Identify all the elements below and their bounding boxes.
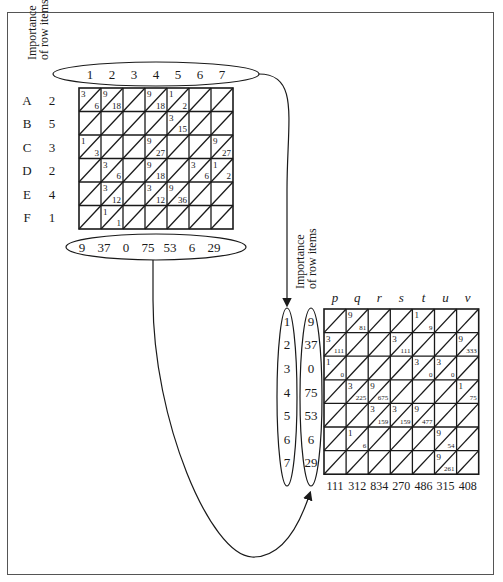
cell-weighted-score: 675 — [378, 394, 389, 402]
cell-diagonal — [123, 206, 145, 230]
cell-relationship-weight: 9 — [213, 136, 218, 146]
cell-diagonal — [79, 206, 101, 230]
cell-weighted-score: 159 — [378, 418, 389, 426]
left-column-sum: 75 — [142, 240, 155, 255]
cell-diagonal — [346, 356, 368, 380]
cell-relationship-weight: 9 — [414, 404, 419, 414]
cell-relationship-weight: 9 — [103, 89, 108, 99]
cell-diagonal — [324, 451, 346, 475]
cell-weighted-score: 6 — [363, 442, 367, 450]
cell-diagonal — [390, 427, 412, 451]
right-column-label: u — [442, 290, 449, 305]
left-row-name: F — [23, 210, 30, 225]
cell-diagonal — [211, 206, 233, 230]
left-row-name: D — [22, 163, 31, 178]
cell-relationship-weight: 3 — [437, 357, 442, 367]
left-column-labels: 1234567 — [87, 67, 226, 82]
cell-weighted-score: 18 — [156, 101, 166, 111]
cell-diagonal — [368, 356, 390, 380]
right-column-sum: 270 — [392, 479, 410, 493]
right-column-sums: 111312834270486315408 — [326, 479, 476, 493]
cell-weighted-score: 2 — [227, 171, 232, 181]
cell-weighted-score: 333 — [466, 347, 477, 355]
cell-relationship-weight: 1 — [348, 428, 353, 438]
cell-relationship-weight: 9 — [147, 136, 152, 146]
left-column-label: 1 — [87, 67, 94, 82]
cell-diagonal — [189, 182, 211, 206]
cell-diagonal — [189, 135, 211, 159]
cell-weighted-score: 225 — [356, 394, 367, 402]
cell-diagonal — [167, 206, 189, 230]
cell-relationship-weight: 9 — [437, 428, 442, 438]
cell-relationship-weight: 9 — [459, 334, 464, 344]
right-row-index: 1234567 — [284, 314, 291, 471]
cell-weighted-score: 6 — [95, 101, 100, 111]
cell-diagonal — [123, 159, 145, 183]
cell-diagonal — [167, 159, 189, 183]
cell-weighted-score: 12 — [112, 195, 121, 205]
cell-diagonal — [457, 356, 479, 380]
cell-diagonal — [145, 206, 167, 230]
cell-relationship-weight: 3 — [392, 404, 397, 414]
right-row-index: 7 — [284, 455, 291, 470]
left-row-importance: 1 — [49, 210, 56, 225]
right-row-importance: 29 — [305, 455, 318, 470]
cell-diagonal — [390, 380, 412, 404]
left-row-importance: 2 — [49, 163, 56, 178]
cell-relationship-weight: 9 — [169, 183, 174, 193]
cell-relationship-weight: 3 — [326, 334, 331, 344]
cell-relationship-weight: 9 — [370, 381, 375, 391]
cell-diagonal — [145, 112, 167, 136]
cell-weighted-score: 2 — [183, 101, 188, 111]
right-column-label: s — [399, 290, 404, 305]
cell-diagonal — [435, 403, 457, 427]
cell-diagonal — [457, 451, 479, 475]
right-row-index: 2 — [284, 337, 291, 352]
left-row-importance: 4 — [49, 187, 56, 202]
right-row-index: 1 — [284, 314, 291, 329]
right-column-sum: 486 — [414, 479, 432, 493]
right-column-sum: 408 — [459, 479, 477, 493]
cell-relationship-weight: 3 — [103, 183, 108, 193]
cell-relationship-weight: 3 — [348, 381, 353, 391]
cell-weighted-score: 111 — [334, 347, 344, 355]
cell-diagonal — [368, 309, 390, 333]
cell-diagonal — [189, 88, 211, 112]
cell-diagonal — [324, 427, 346, 451]
cell-diagonal — [123, 112, 145, 136]
cell-diagonal — [435, 309, 457, 333]
cell-diagonal — [324, 380, 346, 404]
left-column-label: 4 — [153, 67, 160, 82]
cell-diagonal — [79, 159, 101, 183]
left-column-label: 7 — [219, 67, 226, 82]
cell-weighted-score: 12 — [156, 195, 165, 205]
cell-diagonal — [368, 333, 390, 357]
right-column-label: r — [377, 290, 383, 305]
left-row-name: C — [23, 140, 32, 155]
left-column-label: 5 — [175, 67, 182, 82]
cell-relationship-weight: 1 — [414, 310, 419, 320]
cell-weighted-score: 36 — [178, 195, 188, 205]
right-column-label: t — [422, 290, 426, 305]
left-row-name: B — [23, 116, 32, 131]
right-row-importance: 9 — [308, 314, 315, 329]
left-title-line-2: of row items — [37, 0, 51, 60]
left-column-label: 6 — [197, 67, 204, 82]
left-row-name: E — [23, 187, 31, 202]
cell-diagonal — [189, 206, 211, 230]
cell-relationship-weight: 3 — [191, 160, 196, 170]
cell-diagonal — [435, 380, 457, 404]
left-row-importance: 2 — [49, 93, 56, 108]
cell-diagonal — [346, 403, 368, 427]
right-row-index: 6 — [284, 432, 291, 447]
right-row-importance: 53 — [305, 408, 318, 423]
right-matrix-grid: 9811931113111933310303032259675175315931… — [324, 309, 479, 474]
cell-diagonal — [390, 309, 412, 333]
left-column-sum: 37 — [98, 240, 112, 255]
cell-diagonal — [324, 309, 346, 333]
cell-weighted-score: 3 — [95, 148, 100, 158]
cell-weighted-score: 0 — [429, 371, 433, 379]
cell-diagonal — [390, 356, 412, 380]
left-row-importance: 5 — [49, 116, 56, 131]
right-title-line-2: of row items — [305, 228, 319, 289]
